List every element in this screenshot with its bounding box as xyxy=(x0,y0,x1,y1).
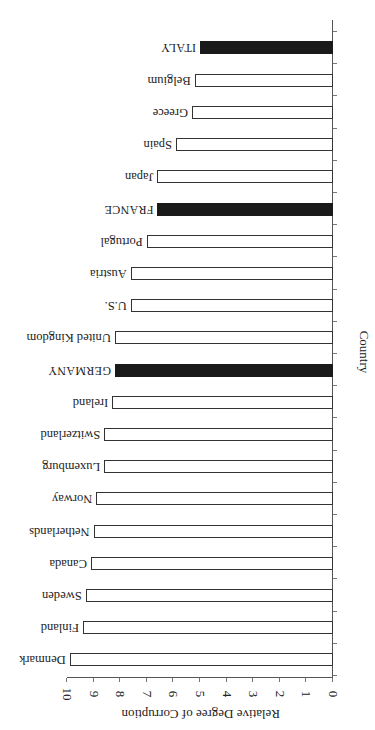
bar-label: GERMANY xyxy=(48,364,111,377)
y-tick xyxy=(333,353,337,354)
bar-label: Switzerland xyxy=(41,428,101,441)
y-tick xyxy=(333,450,337,451)
x-tick-label: 6 xyxy=(165,684,181,704)
y-tick xyxy=(333,289,337,290)
bar-netherlands xyxy=(94,525,333,538)
y-tick xyxy=(333,675,337,676)
x-tick-label: 1 xyxy=(298,684,314,704)
bar-label: Japan xyxy=(125,170,153,183)
y-tick xyxy=(333,321,337,322)
y-tick xyxy=(333,192,337,193)
bar-label: FRANCE xyxy=(104,203,153,216)
y-tick xyxy=(333,256,337,257)
x-tick xyxy=(305,678,306,682)
x-tick xyxy=(252,678,253,682)
x-tick-label: 0 xyxy=(325,684,341,704)
bar-label: Austria xyxy=(90,267,127,280)
y-tick xyxy=(333,31,337,32)
x-axis-line xyxy=(67,677,333,678)
bar-label: Canada xyxy=(49,557,86,570)
y-tick xyxy=(333,611,337,612)
x-tick-label: 3 xyxy=(245,684,261,704)
y-tick xyxy=(333,128,337,129)
bar-label: U.S. xyxy=(105,299,127,312)
x-tick-label: 5 xyxy=(192,684,208,704)
y-tick xyxy=(333,546,337,547)
bar-label: ITALY xyxy=(161,42,196,55)
bar-label: Ireland xyxy=(73,396,108,409)
y-tick xyxy=(333,95,337,96)
y-tick xyxy=(333,417,337,418)
y-tick xyxy=(333,514,337,515)
y-tick xyxy=(333,643,337,644)
bar-italy xyxy=(200,42,333,55)
bar-belgium xyxy=(195,74,333,87)
bar-japan xyxy=(157,170,333,183)
bar-spain xyxy=(176,138,333,151)
bar-luxemburg xyxy=(104,460,333,473)
bar-label: Norway xyxy=(52,492,92,505)
bar-label: Portugal xyxy=(100,235,142,248)
x-tick-label: 8 xyxy=(112,684,128,704)
y-axis-title: Country xyxy=(356,331,372,374)
bar-switzerland xyxy=(104,428,333,441)
y-tick xyxy=(333,578,337,579)
x-tick xyxy=(119,678,120,682)
x-tick xyxy=(279,678,280,682)
bar-label: Denmark xyxy=(19,654,66,667)
bar-sweden xyxy=(86,589,333,602)
y-tick xyxy=(333,160,337,161)
x-tick xyxy=(93,678,94,682)
bar-germany xyxy=(115,364,333,377)
bar-united-kingdom xyxy=(115,331,333,344)
y-tick xyxy=(333,224,337,225)
bar-portugal xyxy=(147,235,333,248)
x-tick-label: 10 xyxy=(59,684,75,704)
bar-label: Netherlands xyxy=(29,525,89,538)
bar-label: Greece xyxy=(153,106,188,119)
rotated-chart: 012345678910DenmarkFinlandSwedenCanadaNe… xyxy=(0,0,375,730)
bar-label: Belgium xyxy=(148,74,191,87)
x-tick xyxy=(226,678,227,682)
bar-label: Finland xyxy=(41,621,79,634)
bar-france xyxy=(157,203,333,216)
x-tick-label: 2 xyxy=(272,684,288,704)
x-tick xyxy=(66,678,67,682)
bar-u-s xyxy=(131,299,333,312)
bar-greece xyxy=(192,106,333,119)
bar-ireland xyxy=(112,396,333,409)
bar-finland xyxy=(83,621,333,634)
y-tick xyxy=(333,385,337,386)
y-tick xyxy=(333,482,337,483)
bar-canada xyxy=(91,557,333,570)
y-tick xyxy=(333,63,337,64)
bar-label: Sweden xyxy=(42,589,82,602)
x-tick-label: 7 xyxy=(139,684,155,704)
bar-austria xyxy=(131,267,333,280)
x-axis-title: Relative Degree of Corruption xyxy=(122,706,280,722)
x-tick-label: 4 xyxy=(219,684,235,704)
bar-label: Luxemburg xyxy=(42,460,100,473)
x-tick xyxy=(332,678,333,682)
bar-label: Spain xyxy=(144,138,172,151)
x-tick xyxy=(172,678,173,682)
x-tick xyxy=(199,678,200,682)
bar-norway xyxy=(96,492,333,505)
bar-label: United Kingdom xyxy=(27,331,111,344)
x-tick xyxy=(146,678,147,682)
x-tick-label: 9 xyxy=(86,684,102,704)
bar-denmark xyxy=(70,654,333,667)
